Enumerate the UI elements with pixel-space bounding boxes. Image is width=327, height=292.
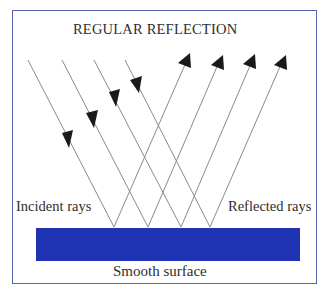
diagram-title: REGULAR REFLECTION xyxy=(73,21,237,38)
smooth-surface xyxy=(36,228,300,261)
incident-arrow-icon xyxy=(86,110,98,128)
reflected-arrow-icon xyxy=(274,55,287,70)
smooth-surface-label: Smooth surface xyxy=(113,263,207,280)
reflected-arrow-icon xyxy=(211,55,224,70)
reflection-diagram xyxy=(0,0,327,292)
incident-arrow-icon xyxy=(62,130,73,148)
incident-arrow-icon xyxy=(109,89,120,107)
arrowheads xyxy=(62,53,287,148)
incident-rays-label: Incident rays xyxy=(16,198,91,215)
reflected-rays-label: Reflected rays xyxy=(228,198,311,215)
